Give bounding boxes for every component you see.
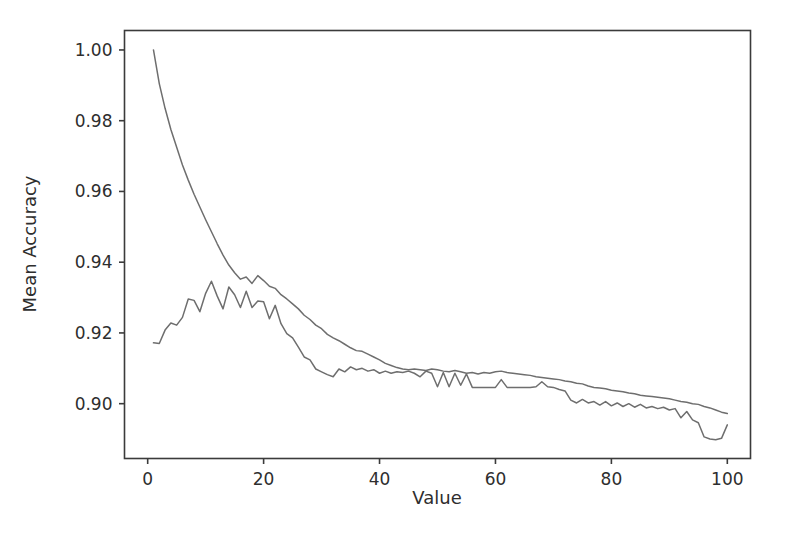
chart-figure: 020406080100 0.900.920.940.960.981.00 Va… <box>0 0 791 537</box>
y-tick-label: 0.94 <box>75 252 113 272</box>
line-chart: 020406080100 0.900.920.940.960.981.00 Va… <box>0 0 791 537</box>
x-tick-label: 40 <box>369 469 391 489</box>
y-axis-title: Mean Accuracy <box>19 175 40 312</box>
y-tick-label: 0.98 <box>75 111 113 131</box>
chart-background <box>0 0 791 537</box>
x-axis-title: Value <box>412 487 461 508</box>
x-tick-label: 80 <box>601 469 623 489</box>
y-tick-label: 0.96 <box>75 181 113 201</box>
y-tick-label: 0.90 <box>75 394 113 414</box>
y-tick-label: 1.00 <box>75 40 113 60</box>
x-tick-label: 0 <box>142 469 153 489</box>
y-tick-label: 0.92 <box>75 323 113 343</box>
x-tick-label: 100 <box>711 469 743 489</box>
x-tick-label: 60 <box>485 469 507 489</box>
x-tick-label: 20 <box>253 469 275 489</box>
